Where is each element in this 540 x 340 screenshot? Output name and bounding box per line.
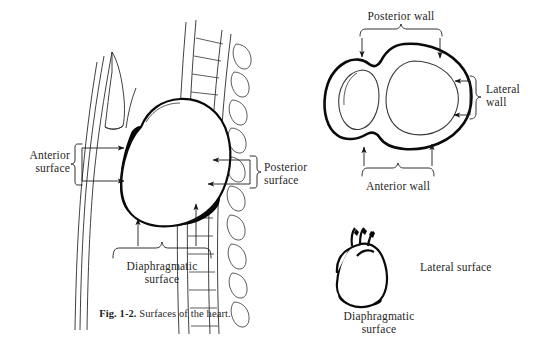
label-anterior-wall: Anterior wall (338, 180, 458, 193)
figure-caption: Fig. 1-2. Surfaces of the heart. (0, 308, 330, 319)
label-diaphragmatic-surface-right-line1: Diaphragmatic (344, 310, 415, 322)
figure-caption-text: Surfaces of the heart. (139, 308, 230, 319)
label-posterior-surface-line2: surface (264, 174, 299, 186)
label-lateral-wall-line2: wall (486, 96, 507, 108)
heart-sagittal-outline (120, 99, 230, 226)
label-posterior-surface: Posterior surface (264, 161, 307, 187)
label-posterior-surface-line1: Posterior (264, 161, 307, 173)
label-diaphragmatic-surface-right-line2: surface (362, 323, 397, 335)
heart-small-drawing (337, 228, 387, 307)
anterior-surface-annotation (71, 144, 124, 185)
chest-wall-group (75, 52, 125, 330)
label-diaphragmatic-surface-left-line2: surface (145, 273, 180, 285)
label-diaphragmatic-surface-left: Diaphragmatic surface (102, 260, 222, 286)
label-anterior-surface-line2: surface (35, 162, 70, 174)
label-anterior-surface-line1: Anterior (29, 149, 70, 161)
label-lateral-surface: Lateral surface (420, 261, 492, 274)
figure-root: Anterior surface Posterior surface Diaph… (0, 0, 540, 340)
label-lateral-wall-line1: Lateral (486, 83, 520, 95)
label-diaphragmatic-surface-right: Diaphragmatic surface (324, 310, 434, 336)
ventricle-cross-section-drawing (325, 24, 482, 176)
label-posterior-wall: Posterior wall (341, 10, 461, 23)
label-lateral-wall: Lateral wall (486, 83, 520, 109)
label-diaphragmatic-surface-left-line1: Diaphragmatic (127, 260, 198, 272)
label-anterior-surface: Anterior surface (4, 149, 70, 175)
figure-caption-number: Fig. 1-2. (99, 308, 136, 319)
great-vessel (126, 88, 136, 128)
